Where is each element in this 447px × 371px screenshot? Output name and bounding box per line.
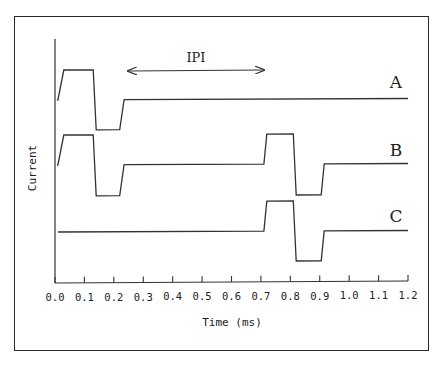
x-tick-label: 1.2 <box>399 289 418 301</box>
x-axis-tick-labels: 0.00.10.20.30.40.50.60.70.80.91.01.11.2 <box>46 289 418 303</box>
y-axis-title: Current <box>26 145 39 191</box>
x-axis-title: Time (ms) <box>202 316 262 329</box>
x-tick-label: 0.6 <box>222 290 241 302</box>
trace-c-line <box>58 201 408 261</box>
x-tick-label: 0.9 <box>310 290 329 302</box>
x-tick-label: 0.5 <box>193 290 212 302</box>
trace-b-label: B <box>390 140 403 160</box>
x-tick-label: 1.1 <box>369 289 388 301</box>
trace-c-label: C <box>389 206 402 226</box>
x-tick-label: 1.0 <box>340 289 359 301</box>
x-tick-label: 0.1 <box>75 291 94 303</box>
trace-b-line <box>57 134 408 196</box>
chart-svg: 0.00.10.20.30.40.50.60.70.80.91.01.11.2 … <box>0 0 447 371</box>
x-tick-label: 0.4 <box>163 290 182 302</box>
x-tick-label: 0.8 <box>281 290 300 302</box>
figure: 0.00.10.20.30.40.50.60.70.80.91.01.11.2 … <box>0 0 447 371</box>
x-tick-label: 0.2 <box>104 291 123 303</box>
x-tick-label: 0.7 <box>251 290 270 302</box>
x-tick-label: 0.3 <box>134 291 153 303</box>
ipi-double-arrow <box>128 70 264 71</box>
trace-a-label: A <box>389 72 403 92</box>
ipi-label: IPI <box>186 50 205 65</box>
x-tick-label: 0.0 <box>46 291 65 303</box>
trace-a-line <box>57 70 408 130</box>
